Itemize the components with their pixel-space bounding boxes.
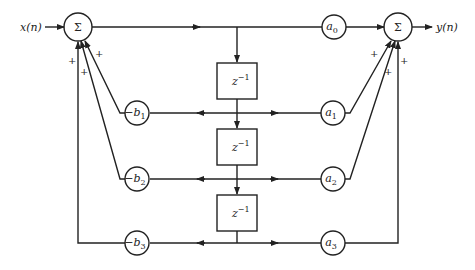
svg-text:z−1: z−1 (231, 205, 250, 220)
plus-sign: + (68, 55, 76, 66)
plus-sign: + (370, 48, 378, 59)
svg-text:−b2: −b2 (124, 172, 145, 187)
block-diagram: x(n) y(n) Σ Σ + + + + + + z−1 z−1 z−1 a0… (0, 0, 475, 270)
summer-left-symbol: Σ (74, 21, 82, 34)
input-label: x(n) (20, 21, 42, 34)
svg-text:z−1: z−1 (231, 139, 250, 154)
svg-text:a1: a1 (325, 106, 337, 121)
svg-text:a3: a3 (325, 236, 337, 251)
svg-text:a0: a0 (326, 20, 338, 35)
svg-text:−b1: −b1 (124, 106, 145, 121)
plus-sign: + (384, 66, 392, 77)
summer-right-symbol: Σ (394, 21, 402, 34)
output-label: y(n) (435, 21, 458, 34)
svg-text:z−1: z−1 (231, 73, 250, 88)
plus-sign: + (95, 48, 103, 59)
svg-text:a2: a2 (325, 172, 337, 187)
plus-sign: + (80, 66, 88, 77)
plus-sign: + (400, 55, 408, 66)
svg-text:−b3: −b3 (124, 236, 145, 251)
